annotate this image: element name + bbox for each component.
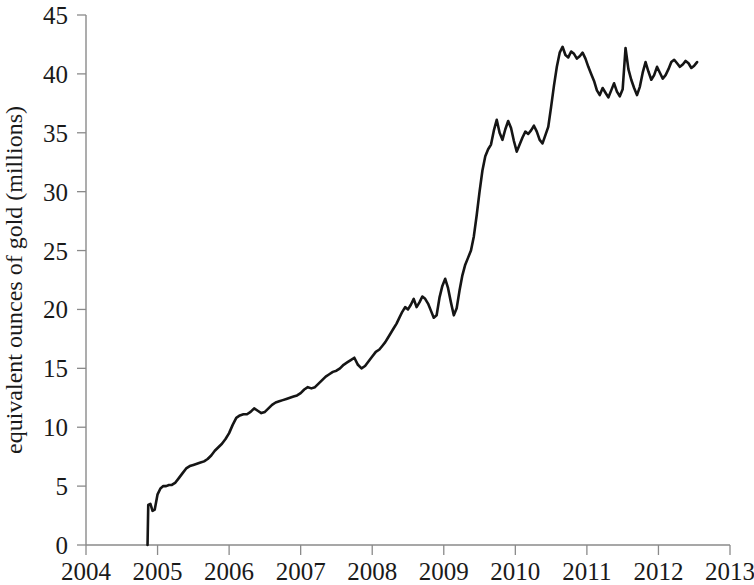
chart-figure: equivalent ounces of gold (millions) 051… — [0, 0, 754, 585]
x-tick-label: 2009 — [419, 558, 469, 585]
y-tick-label: 20 — [43, 296, 68, 323]
y-tick-label: 10 — [43, 414, 68, 441]
y-tick-label: 35 — [43, 120, 68, 147]
x-tick-label: 2006 — [204, 558, 254, 585]
x-tick-label: 2007 — [276, 558, 326, 585]
x-tick-label: 2008 — [347, 558, 397, 585]
y-tick-label: 25 — [43, 238, 68, 265]
x-tick-label: 2012 — [633, 558, 683, 585]
y-tick-label: 45 — [43, 2, 68, 29]
y-axis-title-text: equivalent ounces of gold (millions) — [1, 106, 27, 454]
x-axis-ticks: 2004200520062007200820092010201120122013 — [61, 545, 754, 585]
data-series-line — [148, 47, 698, 545]
line-chart: equivalent ounces of gold (millions) 051… — [0, 0, 754, 585]
y-tick-label: 40 — [43, 61, 68, 88]
x-tick-label: 2005 — [133, 558, 183, 585]
x-tick-label: 2004 — [61, 558, 112, 585]
x-tick-label: 2010 — [490, 558, 540, 585]
y-tick-label: 15 — [43, 355, 68, 382]
x-tick-label: 2013 — [705, 558, 754, 585]
y-axis-title: equivalent ounces of gold (millions) — [1, 106, 27, 454]
x-tick-label: 2011 — [562, 558, 611, 585]
y-tick-label: 0 — [56, 532, 69, 559]
y-axis-ticks: 051015202530354045 — [43, 2, 86, 559]
y-tick-label: 30 — [43, 179, 68, 206]
y-tick-label: 5 — [56, 473, 69, 500]
